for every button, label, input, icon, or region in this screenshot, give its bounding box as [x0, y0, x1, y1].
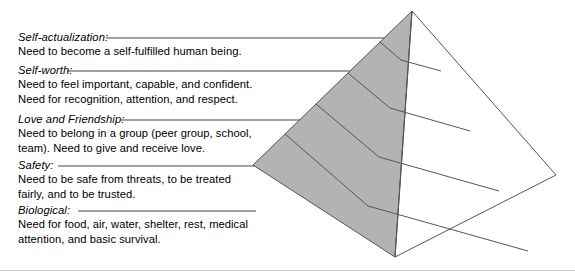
- need-description-line: Need to become a self-fulfilled human be…: [18, 44, 242, 59]
- hierarchy-of-needs-figure: Self-actualization: Need to become a sel…: [0, 0, 575, 271]
- need-block-self-actualization: Self-actualization: Need to become a sel…: [18, 30, 242, 59]
- need-description-biological: Need for food, air, water, shelter, rest…: [18, 217, 248, 246]
- need-block-love-and-friendship: Love and Friendship: Need to belong in a…: [18, 112, 252, 155]
- need-description-line: fairly, and to be trusted.: [18, 187, 231, 202]
- need-description-safety: Need to be safe from threats, to be trea…: [18, 172, 231, 201]
- need-term-biological: Biological:: [18, 203, 248, 217]
- need-description-line: Need to be safe from threats, to be trea…: [18, 172, 231, 187]
- need-description-self-actualization: Need to become a self-fulfilled human be…: [18, 44, 242, 59]
- need-description-line: Need for recognition, attention, and res…: [18, 92, 252, 107]
- need-description-line: attention, and basic survival.: [18, 232, 248, 247]
- pyramid-left-face: [253, 11, 412, 257]
- need-term-love-and-friendship: Love and Friendship:: [18, 112, 252, 126]
- need-term-self-worth: Self-worth:: [18, 63, 252, 77]
- need-block-biological: Biological: Need for food, air, water, s…: [18, 203, 248, 246]
- need-description-self-worth: Need to feel important, capable, and con…: [18, 77, 252, 106]
- need-term-safety: Safety:: [18, 158, 231, 172]
- need-description-line: Need to feel important, capable, and con…: [18, 77, 252, 92]
- need-block-safety: Safety: Need to be safe from threats, to…: [18, 158, 231, 201]
- need-block-self-worth: Self-worth: Need to feel important, capa…: [18, 63, 252, 106]
- need-description-line: team). Need to give and receive love.: [18, 141, 252, 156]
- need-description-line: Need to belong in a group (peer group, s…: [18, 126, 252, 141]
- need-term-self-actualization: Self-actualization:: [18, 30, 242, 44]
- need-description-line: Need for food, air, water, shelter, rest…: [18, 217, 248, 232]
- need-description-love-and-friendship: Need to belong in a group (peer group, s…: [18, 126, 252, 155]
